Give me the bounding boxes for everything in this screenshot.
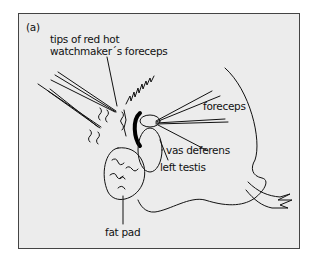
- label-vas-deferens: vas deferens: [166, 144, 230, 156]
- tips-leader-line: [107, 57, 117, 106]
- watchmaker-forceps-icon: [38, 72, 116, 128]
- panel-label: (a): [26, 21, 40, 33]
- fat-pad-shape: [104, 148, 145, 200]
- label-fat-pad: fat pad: [105, 226, 140, 238]
- surgical-diagram: [0, 0, 315, 261]
- label-tips-line2: watchmaker´s foreceps: [50, 45, 168, 57]
- label-tips-line1: tips of red hot: [50, 33, 119, 45]
- label-left-testis: left testis: [160, 161, 206, 173]
- label-forceps: foreceps: [203, 100, 246, 112]
- left-testis-shape: [138, 128, 162, 172]
